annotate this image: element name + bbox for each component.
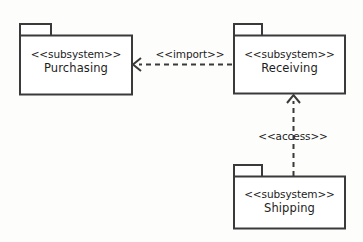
package-tab-purchasing <box>20 24 51 36</box>
package-tab-shipping <box>234 165 262 177</box>
package-body-shipping <box>234 177 345 229</box>
package-tab-receiving <box>234 24 262 36</box>
package-body-receiving <box>234 36 345 94</box>
dependency-import[interactable] <box>133 58 232 71</box>
package-purchasing[interactable] <box>20 24 132 95</box>
diagram-canvas <box>0 0 363 242</box>
uml-package-diagram: <<subsystem>> Purchasing <<subsystem>> R… <box>0 0 363 242</box>
package-body-purchasing <box>20 36 132 95</box>
dependency-access[interactable] <box>287 95 300 176</box>
package-receiving[interactable] <box>234 24 345 94</box>
package-shipping[interactable] <box>234 165 345 229</box>
